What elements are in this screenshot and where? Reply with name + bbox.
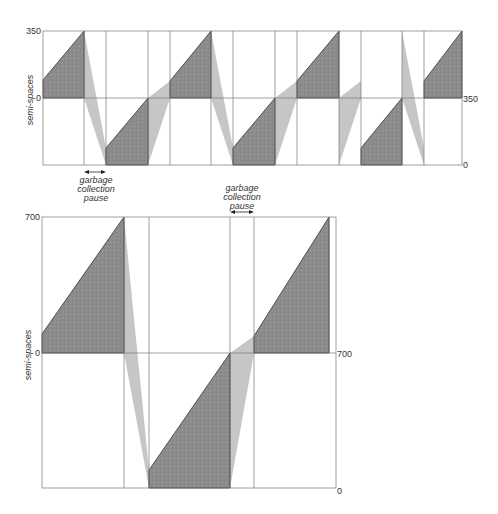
bottom-allocation-regions <box>42 217 329 488</box>
bottom-gc-pause-annotation: garbage collection pause <box>223 183 261 214</box>
top-left-tick-0: 0 <box>36 93 41 103</box>
annotation-line-3: pause <box>229 201 255 211</box>
top-left-tick-350: 350 <box>26 26 41 36</box>
bottom-right-tick-0: 0 <box>337 486 342 496</box>
top-right-tick-0: 0 <box>463 160 468 170</box>
bottom-right-tick-700: 700 <box>337 349 352 359</box>
top-gc-pause-annotation: garbage collection pause <box>77 170 115 203</box>
top-right-tick-350: 350 <box>463 94 478 104</box>
top-y-axis-label: semi-spaces <box>25 74 35 125</box>
annotation-line-3: pause <box>83 193 109 203</box>
arrow-right-icon <box>101 170 106 174</box>
top-chart: 350 0 350 0 semi-spaces garbage collecti… <box>25 26 478 203</box>
gc-diagram: 350 0 350 0 semi-spaces garbage collecti… <box>0 0 498 514</box>
bottom-left-tick-0: 0 <box>35 348 40 358</box>
bottom-chart: 700 0 700 0 semi-spaces garbage collecti… <box>23 183 352 496</box>
arrow-left-icon <box>84 170 89 174</box>
bottom-y-axis-label: semi-spaces <box>23 329 33 380</box>
bottom-left-tick-700: 700 <box>25 212 40 222</box>
